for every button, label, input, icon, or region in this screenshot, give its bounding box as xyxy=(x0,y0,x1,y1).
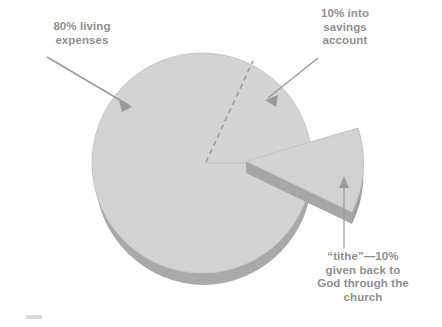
living-expenses-leader-line xyxy=(47,57,130,106)
living-expenses-label: 80% living expenses xyxy=(22,20,142,47)
savings-label: 10% into savings account xyxy=(292,7,398,48)
bottom-left-register-mark xyxy=(26,315,42,319)
pie-chart-figure: 80% living expenses 10% into savings acc… xyxy=(0,0,442,327)
tithe-label: “tithe”—10% given back to God through th… xyxy=(288,250,438,304)
savings-leader-line xyxy=(268,58,318,98)
